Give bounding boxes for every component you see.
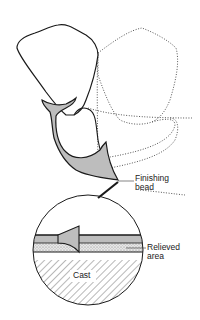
tooth-crown bbox=[17, 25, 98, 115]
diagram-canvas bbox=[0, 0, 200, 320]
relieved-area-label: Relieved area bbox=[147, 243, 180, 261]
cast-label: Cast bbox=[73, 271, 90, 280]
finishing-bead-label-line2: bead bbox=[135, 183, 169, 192]
finishing-bead-label: Finishing bead bbox=[135, 174, 169, 192]
magnifier-leader bbox=[98, 182, 118, 198]
relieved-area-label-line2: area bbox=[147, 252, 180, 261]
